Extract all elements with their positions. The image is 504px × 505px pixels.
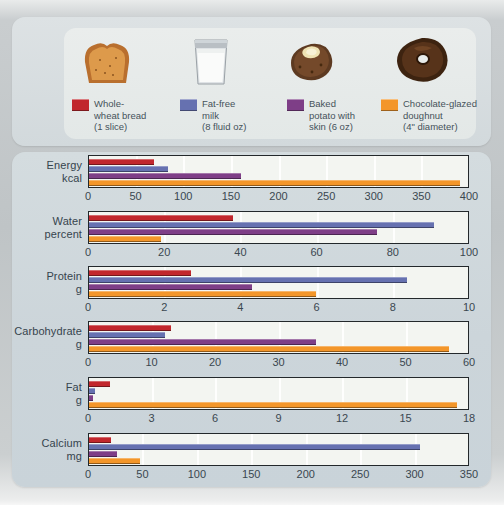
- legend-swatch: [72, 99, 89, 111]
- tick-label: 200: [288, 468, 324, 480]
- bar-fat-free-milk: [89, 444, 420, 450]
- bar-baked-potato: [89, 451, 117, 457]
- row-label: Energykcal: [12, 155, 82, 188]
- tick-label: 4: [222, 301, 258, 313]
- tick-label: 0: [70, 190, 106, 202]
- legend-swatch: [287, 99, 304, 111]
- row-label: Calciummg: [12, 433, 82, 466]
- row-label: Fatg: [12, 377, 82, 410]
- tick-label: 10: [134, 356, 170, 368]
- row-label-name: Calcium: [42, 437, 82, 450]
- tick-label: 40: [324, 356, 360, 368]
- tick-label: 250: [342, 468, 378, 480]
- tick-label: 50: [124, 468, 160, 480]
- legend-swatch: [180, 99, 197, 111]
- tick-label: 100: [451, 246, 487, 258]
- row-label-unit: g: [76, 338, 82, 351]
- tick-label: 0: [70, 412, 106, 424]
- tick-label: 150: [233, 468, 269, 480]
- chart-row: Calciummg050100150200250300350: [12, 433, 491, 485]
- row-label-unit: g: [76, 394, 82, 407]
- plot-area: [88, 433, 469, 466]
- tick-label: 400: [451, 190, 487, 202]
- bar-whole-wheat-bread: [89, 325, 171, 331]
- legend-item-baked-potato: Baked potato with skin (6 oz): [287, 98, 355, 133]
- row-label: Waterpercent: [12, 211, 82, 244]
- tick-label: 30: [261, 356, 297, 368]
- legend-swatch: [381, 99, 398, 111]
- nutrition-comparison-figure: Whole- wheat bread (1 slice) Fat-free mi…: [0, 0, 504, 505]
- bar-chocolate-doughnut: [89, 402, 457, 408]
- tick-label: 50: [118, 190, 154, 202]
- tick-label: 9: [261, 412, 297, 424]
- chart-row: Fatg0369121518: [12, 377, 491, 429]
- row-label-unit: mg: [67, 450, 82, 463]
- plot-area: [88, 266, 469, 299]
- bar-baked-potato: [89, 173, 241, 179]
- tick-label: 100: [179, 468, 215, 480]
- chart-panels: Energykcal050100150200250300350400Waterp…: [12, 152, 491, 487]
- chart-row: Proteing0246810: [12, 266, 491, 318]
- legend-panel: Whole- wheat bread (1 slice) Fat-free mi…: [64, 28, 476, 139]
- legend-item-chocolate-doughnut: Chocolate-glazed doughnut (4" diameter): [381, 98, 477, 133]
- tick-label: 15: [388, 412, 424, 424]
- tick-label: 0: [70, 301, 106, 313]
- legend-item-whole-wheat-bread: Whole- wheat bread (1 slice): [72, 98, 146, 133]
- bar-fat-free-milk: [89, 332, 165, 338]
- row-label-name: Energy: [47, 159, 82, 172]
- bar-whole-wheat-bread: [89, 270, 191, 276]
- plot-area: [88, 377, 469, 410]
- tick-label: 12: [324, 412, 360, 424]
- tick-label: 60: [451, 356, 487, 368]
- bar-baked-potato: [89, 229, 377, 235]
- tick-label: 40: [222, 246, 258, 258]
- tick-label: 2: [146, 301, 182, 313]
- legend-label: Baked potato with skin (6 oz): [309, 98, 355, 133]
- legend-label: Fat-free milk (8 fluid oz): [202, 98, 246, 133]
- row-label-unit: percent: [45, 228, 82, 241]
- bar-chocolate-doughnut: [89, 458, 140, 464]
- chart-row: Carbohydrateg0102030405060: [12, 321, 491, 373]
- row-label-name: Protein: [46, 270, 82, 283]
- bar-baked-potato: [89, 339, 316, 345]
- legend-label: Chocolate-glazed doughnut (4" diameter): [403, 98, 477, 133]
- bar-baked-potato: [89, 395, 93, 401]
- legend-label: Whole- wheat bread (1 slice): [94, 98, 146, 133]
- plot-area: [88, 321, 469, 354]
- legend-item-fat-free-milk: Fat-free milk (8 fluid oz): [180, 98, 246, 133]
- tick-label: 8: [375, 301, 411, 313]
- tick-label: 300: [397, 468, 433, 480]
- bar-whole-wheat-bread: [89, 159, 154, 165]
- tick-label: 60: [299, 246, 335, 258]
- bar-chocolate-doughnut: [89, 346, 449, 352]
- tick-label: 20: [146, 246, 182, 258]
- bar-baked-potato: [89, 284, 252, 290]
- bar-chocolate-doughnut: [89, 291, 316, 297]
- row-label-unit: g: [76, 283, 82, 296]
- row-label-name: Water: [53, 215, 82, 228]
- bar-whole-wheat-bread: [89, 215, 233, 221]
- tick-label: 350: [451, 468, 487, 480]
- bar-fat-free-milk: [89, 388, 95, 394]
- tick-label: 80: [375, 246, 411, 258]
- tick-label: 20: [197, 356, 233, 368]
- bar-whole-wheat-bread: [89, 437, 111, 443]
- row-label-name: Fat: [66, 381, 82, 394]
- tick-label: 250: [308, 190, 344, 202]
- bread-icon: [80, 40, 134, 85]
- legend-card: Whole- wheat bread (1 slice) Fat-free mi…: [12, 17, 491, 146]
- tick-label: 100: [165, 190, 201, 202]
- doughnut-icon: [394, 36, 450, 84]
- bar-whole-wheat-bread: [89, 381, 110, 387]
- bar-chocolate-doughnut: [89, 180, 460, 186]
- tick-label: 3: [134, 412, 170, 424]
- tick-label: 0: [70, 468, 106, 480]
- row-label: Proteing: [12, 266, 82, 299]
- bar-fat-free-milk: [89, 277, 407, 283]
- chart-row: Energykcal050100150200250300350400: [12, 155, 491, 207]
- tick-label: 10: [451, 301, 487, 313]
- bar-chocolate-doughnut: [89, 236, 161, 242]
- bar-fat-free-milk: [89, 166, 168, 172]
- tick-label: 50: [388, 356, 424, 368]
- baked-potato-icon: [288, 41, 334, 82]
